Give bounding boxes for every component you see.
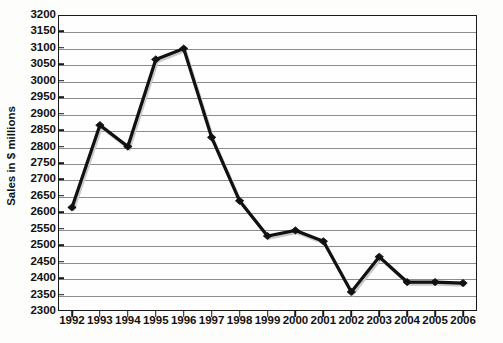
gridline: [59, 180, 476, 181]
gridline: [59, 246, 476, 247]
gridline: [59, 279, 476, 280]
y-axis-tick-mark: [58, 212, 64, 214]
gridline: [59, 296, 476, 297]
y-axis-tick-label: 3150: [4, 26, 56, 38]
y-axis-tick-mark: [58, 31, 64, 33]
plot-area: [58, 15, 477, 311]
x-axis-tick-mark: [127, 311, 129, 317]
gridline: [59, 82, 476, 83]
y-axis-tick-labels: 2300235024002450250025502600265027002750…: [0, 0, 56, 343]
y-axis-tick-mark: [58, 294, 64, 296]
x-axis-tick-mark: [351, 311, 353, 317]
x-axis-tick-mark: [71, 311, 73, 317]
x-axis-tick-mark: [239, 311, 241, 317]
gridline: [59, 49, 476, 50]
y-axis-tick-mark: [58, 47, 64, 49]
gridline: [59, 164, 476, 165]
y-axis-tick-mark: [58, 228, 64, 230]
x-axis-tick-mark: [183, 311, 185, 317]
line-chart: Sales in $ millions 23002350240024502500…: [0, 0, 503, 343]
y-axis-tick-mark: [58, 277, 64, 279]
x-axis-tick-mark: [267, 311, 269, 317]
gridline: [59, 32, 476, 33]
y-axis-tick-label: 3000: [4, 75, 56, 87]
x-axis-tick-mark: [378, 311, 380, 317]
gridline: [59, 148, 476, 149]
gridline: [59, 230, 476, 231]
y-axis-tick-label: 2450: [4, 256, 56, 268]
y-axis-tick-label: 2950: [4, 91, 56, 103]
x-axis-tick-mark: [99, 311, 101, 317]
y-axis-tick-label: 2550: [4, 223, 56, 235]
y-axis-tick-label: 2850: [4, 124, 56, 136]
y-axis-tick-mark: [58, 261, 64, 263]
y-axis-tick-label: 2400: [4, 272, 56, 284]
y-axis-tick-mark: [58, 244, 64, 246]
x-axis-tick-mark: [323, 311, 325, 317]
y-axis-tick-mark: [58, 179, 64, 181]
y-axis-tick-mark: [58, 64, 64, 66]
y-axis-tick-label: 2650: [4, 190, 56, 202]
x-axis-tick-mark: [434, 311, 436, 317]
gridline: [59, 98, 476, 99]
y-axis-tick-label: 2300: [4, 305, 56, 317]
y-axis-tick-mark: [58, 129, 64, 131]
y-axis-tick-label: 2600: [4, 207, 56, 219]
gridline: [59, 213, 476, 214]
y-axis-tick-label: 2350: [4, 289, 56, 301]
x-axis-tick-mark: [406, 311, 408, 317]
y-axis-tick-mark: [58, 195, 64, 197]
x-axis-tick-mark: [211, 311, 213, 317]
y-axis-tick-mark: [58, 146, 64, 148]
y-axis-tick-mark: [58, 162, 64, 164]
y-axis-tick-mark: [58, 96, 64, 98]
gridline: [59, 115, 476, 116]
y-axis-tick-mark: [58, 80, 64, 82]
gridline: [59, 65, 476, 66]
gridline: [59, 197, 476, 198]
y-axis-tick-label: 2900: [4, 108, 56, 120]
y-axis-tick-label: 3050: [4, 59, 56, 71]
y-axis-tick-label: 2700: [4, 174, 56, 186]
x-axis-tick-mark: [295, 311, 297, 317]
x-axis-tick-mark: [462, 311, 464, 317]
y-axis-tick-label: 3200: [4, 9, 56, 21]
y-axis-tick-label: 2500: [4, 239, 56, 251]
gridline: [59, 263, 476, 264]
x-axis-tick-mark: [155, 311, 157, 317]
y-axis-tick-label: 2750: [4, 157, 56, 169]
y-axis-tick-label: 2800: [4, 141, 56, 153]
y-axis-tick-mark: [58, 113, 64, 115]
gridline: [59, 131, 476, 132]
y-axis-tick-label: 3100: [4, 42, 56, 54]
